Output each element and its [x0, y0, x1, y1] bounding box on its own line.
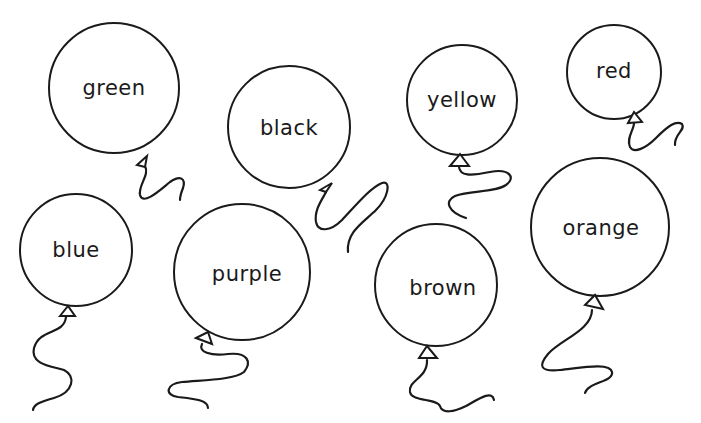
balloon-knot: [585, 295, 603, 309]
balloon-orange: orange: [531, 158, 669, 393]
balloon-blue: blue: [20, 194, 132, 410]
balloon-yellow: yellow: [407, 45, 517, 218]
balloon-label: blue: [52, 238, 99, 262]
balloon-string: [629, 123, 683, 150]
balloon-string: [542, 310, 612, 393]
balloon-string: [169, 344, 248, 408]
balloon-string: [140, 166, 184, 200]
balloon-drawing: green black yellow red blue: [0, 0, 701, 423]
balloon-string: [449, 167, 511, 218]
balloon-green: green: [49, 23, 184, 200]
balloon-knot: [196, 332, 212, 344]
balloon-red: red: [567, 25, 683, 150]
balloon-coloring-worksheet: green black yellow red blue: [0, 0, 701, 423]
balloon-label: green: [82, 76, 145, 100]
balloon-purple: purple: [169, 204, 310, 408]
balloon-label: brown: [409, 276, 476, 300]
balloon-label: red: [596, 59, 632, 83]
balloon-brown: brown: [375, 224, 497, 411]
balloon-knot: [320, 183, 332, 192]
balloon-label: black: [260, 116, 319, 140]
balloon-label: orange: [563, 216, 640, 240]
balloon-string: [410, 360, 494, 411]
balloon-knot: [137, 156, 147, 167]
balloon-label: purple: [212, 262, 282, 286]
balloon-knot: [419, 346, 437, 358]
balloon-string: [33, 317, 71, 410]
balloon-label: yellow: [427, 88, 497, 112]
balloon-knot: [60, 306, 75, 316]
